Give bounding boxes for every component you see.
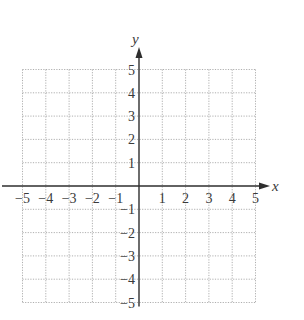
y-tick-label: −1 — [120, 202, 135, 217]
y-tick-label: 1 — [128, 156, 135, 171]
x-tick-labels: −5−4−3−2−112345 — [15, 191, 259, 206]
coordinate-plane: −5−4−3−2−112345 −5−4−3−2−112345 x y — [0, 0, 304, 320]
x-tick-label: 1 — [159, 191, 166, 206]
x-axis-arrow-icon — [259, 183, 270, 190]
y-tick-label: 5 — [128, 63, 135, 78]
x-tick-label: −4 — [38, 191, 53, 206]
x-tick-label: −2 — [85, 191, 100, 206]
y-tick-label: −5 — [120, 296, 135, 311]
x-tick-label: −3 — [62, 191, 77, 206]
y-tick-label: −3 — [120, 249, 135, 264]
x-tick-label: 4 — [229, 191, 236, 206]
x-tick-label: 3 — [205, 191, 212, 206]
x-tick-label: −5 — [15, 191, 30, 206]
x-tick-label: 5 — [252, 191, 259, 206]
y-tick-label: 3 — [128, 109, 135, 124]
x-axis-label: x — [271, 178, 279, 194]
y-tick-label: −4 — [120, 272, 135, 287]
y-tick-label: 2 — [128, 132, 135, 147]
x-tick-label: 2 — [182, 191, 189, 206]
y-tick-label: 4 — [128, 86, 135, 101]
y-axis-arrow-icon — [136, 47, 143, 58]
y-axis-label: y — [130, 31, 139, 47]
y-tick-label: −2 — [120, 226, 135, 241]
axes — [2, 47, 270, 307]
